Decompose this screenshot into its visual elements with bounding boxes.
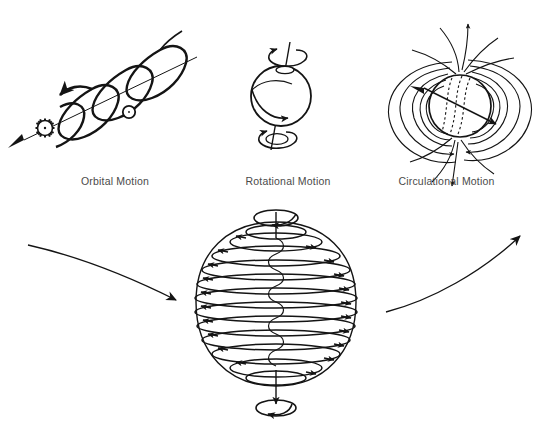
helix-path-icon <box>56 46 187 147</box>
outgoing-trajectory-arrow-icon <box>386 236 520 312</box>
sphere-icon <box>251 66 311 126</box>
planet-icon <box>123 106 135 118</box>
caption-circulational-motion: Circulational Motion <box>345 175 548 187</box>
panel-orbital-motion <box>8 31 197 148</box>
panel-rotational-motion <box>251 42 311 150</box>
toroid-coil-icon <box>195 225 357 385</box>
direction-arrow-icon <box>8 57 197 148</box>
dipole-field-icon <box>388 24 531 186</box>
physics-motion-figure <box>0 0 548 433</box>
spin-loop-bottom-icon <box>259 131 297 148</box>
sun-icon <box>36 119 55 138</box>
panel-circulational-motion <box>388 24 531 186</box>
combined-motion-diagram <box>28 210 520 416</box>
incoming-trajectory-arrow-icon <box>28 245 176 300</box>
